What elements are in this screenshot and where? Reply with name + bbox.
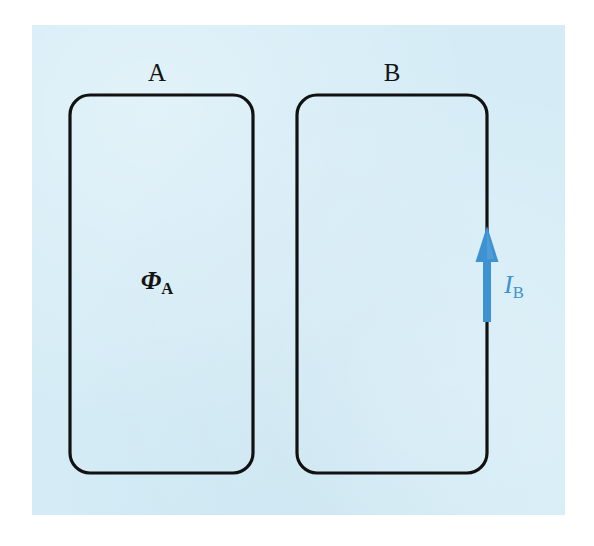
current-symbol-label: IB	[504, 272, 524, 301]
flux-symbol-label: ΦA	[141, 268, 174, 297]
flux-symbol-subscript: A	[161, 279, 173, 298]
current-symbol-glyph: I	[504, 270, 513, 299]
current-symbol-subscript: B	[513, 283, 524, 302]
loop-a-label: A	[148, 60, 166, 85]
loop-b-label: B	[384, 60, 401, 85]
figure-canvas: A B ΦA IB	[0, 0, 594, 546]
current-arrow-icon	[476, 226, 499, 322]
flux-symbol-glyph: Φ	[141, 266, 162, 295]
loop-b-outline	[297, 95, 487, 473]
